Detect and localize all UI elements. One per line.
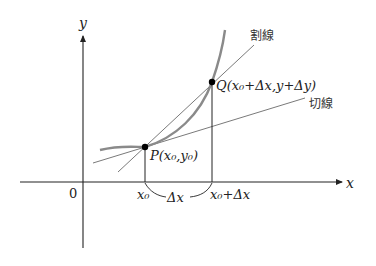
y-axis-label: y: [78, 15, 88, 31]
x0-label: x₀: [137, 187, 150, 202]
point-p-coords: (x₀,y₀): [159, 148, 198, 163]
origin-label: 0: [69, 186, 77, 201]
point-q-label: Q(x₀+Δx,y+Δy): [216, 78, 316, 93]
x0-plus-dx-label: x₀+Δx: [210, 187, 251, 202]
secant-label: 割線: [250, 28, 274, 43]
point-p-label: P(x₀,y₀): [149, 148, 198, 163]
x-axis-label: x: [346, 175, 354, 191]
tangent-label: 切線: [309, 96, 333, 111]
point-q-coords: (x₀+Δx,y+Δy): [227, 78, 316, 93]
point-p: [142, 144, 148, 150]
point-q-name: Q: [216, 78, 227, 93]
delta-x-brace-right: [190, 183, 212, 197]
point-p-name: P: [149, 148, 159, 163]
delta-x-label: Δx: [166, 190, 184, 205]
derivative-diagram: x y 0 P(x₀,y₀) Q(x₀+Δx,y+Δy) x₀ Δx x₀+Δx…: [0, 0, 376, 266]
point-q: [209, 79, 215, 85]
